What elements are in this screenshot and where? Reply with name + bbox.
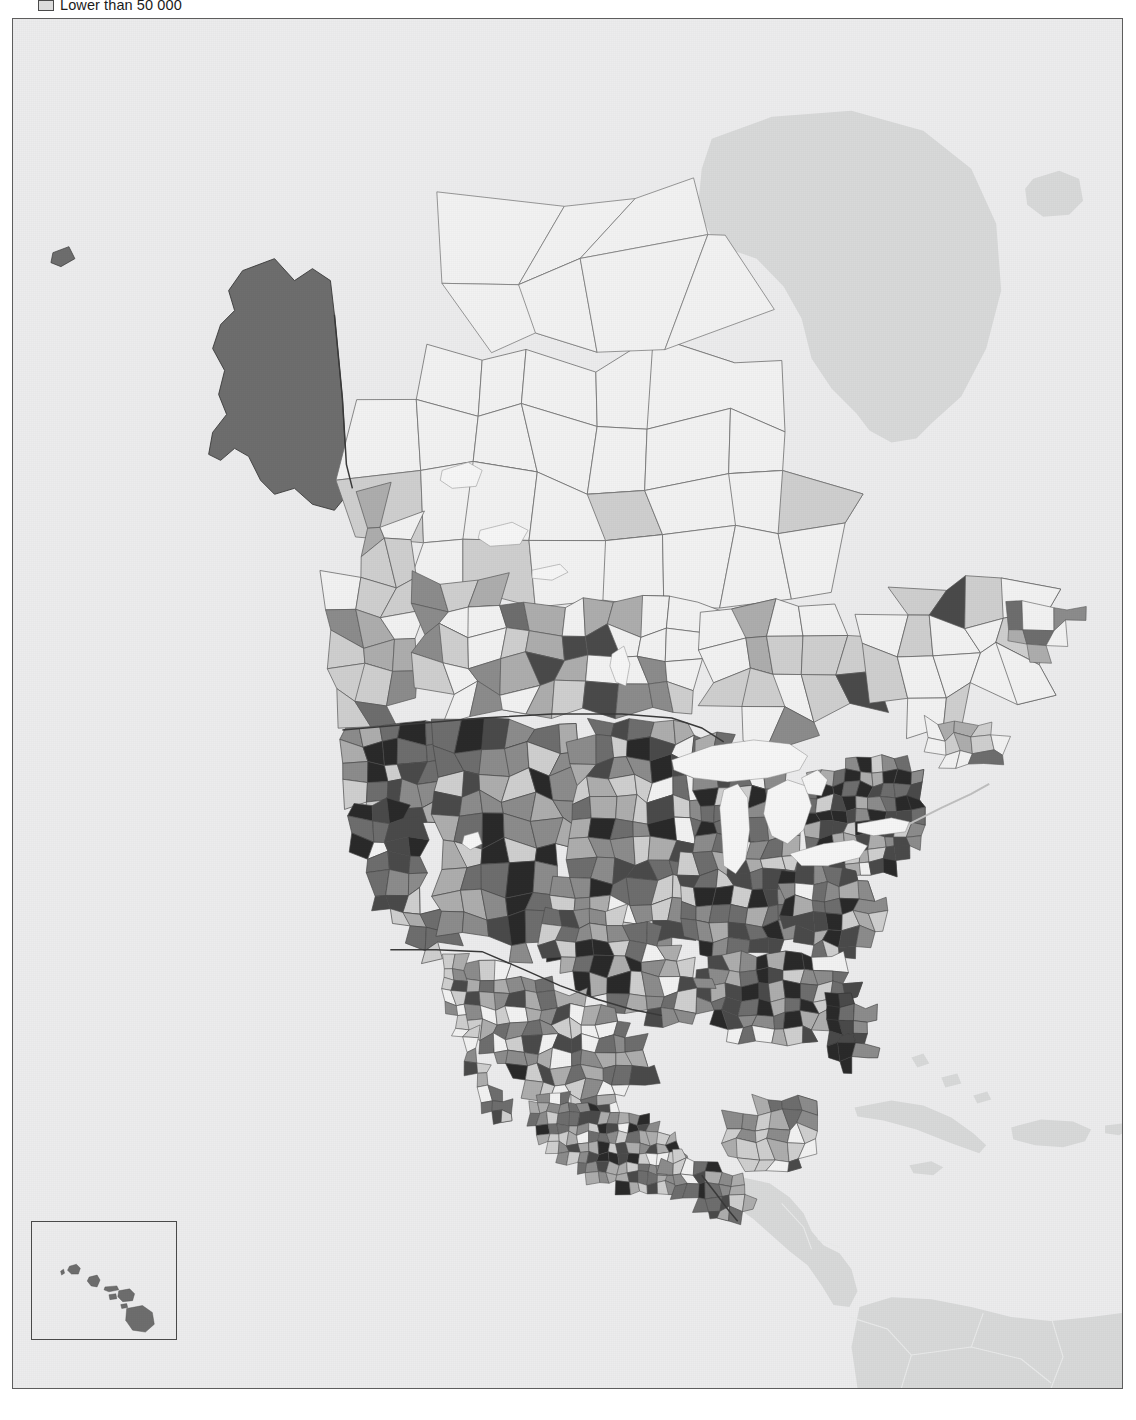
map-unit[interactable] — [614, 1035, 625, 1053]
map-unit[interactable] — [590, 796, 617, 818]
map-canvas[interactable] — [12, 18, 1123, 1389]
map-unit[interactable] — [456, 1004, 466, 1015]
map-unit[interactable] — [479, 980, 494, 992]
map-unit[interactable] — [749, 938, 769, 953]
map-unit[interactable] — [575, 939, 593, 957]
puerto-rico-shape — [1105, 1123, 1122, 1135]
map-unit[interactable] — [451, 980, 468, 991]
hawaii-inset-svg — [32, 1222, 176, 1339]
map-unit[interactable] — [615, 1181, 630, 1195]
map-unit[interactable] — [569, 818, 591, 839]
map-unit[interactable] — [589, 909, 606, 926]
map-unit[interactable] — [587, 427, 647, 495]
map-unit[interactable] — [698, 1182, 705, 1199]
lake-michigan — [720, 784, 750, 874]
map-unit[interactable] — [506, 861, 535, 898]
map-unit[interactable] — [785, 998, 800, 1012]
map-unit[interactable] — [618, 1112, 630, 1124]
map-unit[interactable] — [320, 570, 361, 609]
legend-label-lower-than-50000: Lower than 50 000 — [60, 0, 182, 12]
hawaii-inset-box[interactable] — [31, 1221, 177, 1340]
map-unit[interactable] — [693, 978, 716, 989]
map-unit[interactable] — [701, 806, 715, 823]
map-unit[interactable] — [729, 1185, 745, 1195]
island-kahoolawe — [121, 1304, 128, 1309]
map-unit[interactable] — [585, 1172, 600, 1185]
map-unit[interactable] — [638, 1164, 650, 1171]
map-unit[interactable] — [644, 1008, 663, 1028]
map-unit[interactable] — [894, 846, 910, 861]
map-unit[interactable] — [536, 1093, 550, 1103]
map-unit[interactable] — [386, 869, 409, 895]
map-unit[interactable] — [536, 1124, 550, 1135]
map-unit[interactable] — [382, 738, 397, 765]
map-unit[interactable] — [343, 762, 368, 783]
map-unit[interactable] — [812, 901, 825, 913]
map-unit[interactable] — [629, 1065, 660, 1085]
north-america-choropleth-svg — [13, 19, 1122, 1388]
map-unit[interactable] — [728, 905, 747, 924]
island-lanai — [109, 1294, 117, 1300]
figure-page: Lower than 50 000 — [0, 0, 1136, 1420]
map-unit[interactable] — [545, 1141, 559, 1153]
map-unit[interactable] — [783, 951, 804, 971]
map-unit[interactable] — [548, 1134, 559, 1142]
map-unit[interactable] — [477, 1073, 488, 1087]
map-unit[interactable] — [699, 941, 713, 958]
map-unit[interactable] — [853, 1021, 867, 1034]
map-unit[interactable] — [827, 1005, 840, 1020]
map-unit[interactable] — [856, 796, 868, 809]
map-unit[interactable] — [547, 1111, 559, 1124]
map-unit[interactable] — [464, 1061, 478, 1075]
map-unit[interactable] — [767, 636, 803, 675]
map-unit[interactable] — [826, 913, 843, 931]
map-unit[interactable] — [557, 1112, 570, 1126]
hawaii-inset-background — [32, 1222, 176, 1339]
map-unit[interactable] — [627, 1171, 638, 1183]
map-unit[interactable] — [880, 783, 895, 797]
map-unit[interactable] — [846, 808, 856, 823]
map-legend: Lower than 50 000 — [38, 0, 182, 16]
map-unit[interactable] — [1006, 601, 1023, 630]
legend-swatch-lower-than-50000 — [38, 0, 54, 11]
